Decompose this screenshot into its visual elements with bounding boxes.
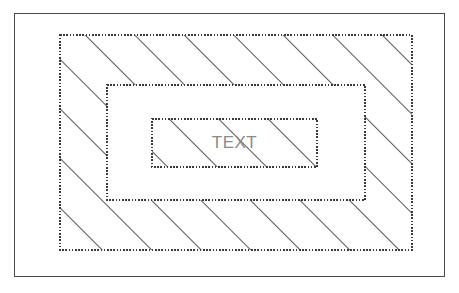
diagram-svg bbox=[0, 0, 459, 293]
figure-canvas: TEXT bbox=[0, 0, 459, 293]
inner-hatched-region bbox=[152, 119, 317, 167]
